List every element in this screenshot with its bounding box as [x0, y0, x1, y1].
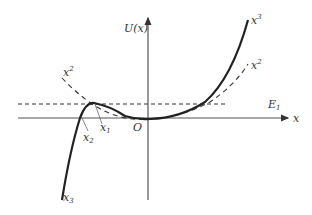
origin-label: O [133, 121, 142, 134]
x1-label: x1 [100, 121, 111, 135]
y-axis-label: U(x) [124, 22, 148, 35]
x2-leader [82, 118, 88, 131]
x-axis-label: x [293, 112, 300, 125]
energy-label: E1 [267, 98, 281, 112]
cubic-bottom-label: x3 [63, 191, 74, 205]
cubic-top-label: x3 [251, 13, 262, 27]
potential-curve [62, 20, 248, 200]
quadratic-right-label: x2 [251, 58, 262, 72]
quadratic-curve [62, 64, 248, 119]
x2-label: x2 [83, 131, 94, 145]
quadratic-left-label: x2 [63, 65, 74, 79]
potential-energy-diagram: U(x) x O E1 x3 x2 x2 x3 x1 x2 [0, 0, 312, 215]
